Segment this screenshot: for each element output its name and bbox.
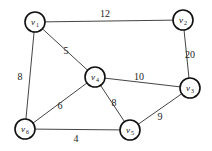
edge-weight-v4-v3: 10: [134, 71, 144, 82]
edge-weight-v4-v5: 8: [112, 97, 117, 108]
node-v5: v5: [120, 120, 140, 140]
node-circle: [85, 67, 105, 87]
node-label: v: [126, 125, 130, 135]
node-circle: [173, 10, 193, 30]
node-v2: v2: [173, 10, 193, 30]
edge-weight-v6-v5: 4: [74, 133, 79, 144]
node-circle: [25, 12, 45, 32]
weights-layer: 125820106894: [18, 8, 196, 144]
nodes-layer: v1v2v4v3v6v5: [15, 10, 200, 140]
node-v1: v1: [25, 12, 45, 32]
node-v4: v4: [85, 67, 105, 87]
node-v3: v3: [180, 78, 200, 98]
node-subscript: 4: [96, 77, 99, 83]
edge-weight-v3-v5: 9: [158, 111, 163, 122]
edge-v6-v5: [25, 129, 130, 130]
node-circle: [15, 119, 35, 139]
node-subscript: 6: [26, 129, 29, 135]
node-subscript: 5: [131, 130, 134, 136]
edge-weight-v1-v4: 5: [64, 45, 69, 56]
edge-weight-v1-v6: 8: [18, 71, 23, 82]
node-circle: [120, 120, 140, 140]
node-label: v: [21, 124, 25, 134]
edge-weight-v4-v6: 6: [58, 100, 63, 111]
node-subscript: 2: [184, 20, 187, 26]
graph-canvas: 125820106894 v1v2v4v3v6v5: [0, 0, 212, 151]
edge-weight-v2-v3: 20: [185, 49, 195, 60]
node-label: v: [179, 15, 183, 25]
node-circle: [180, 78, 200, 98]
node-subscript: 1: [36, 22, 39, 28]
edge-weight-v1-v2: 12: [100, 8, 110, 19]
edge-v1-v2: [35, 20, 183, 22]
node-subscript: 3: [191, 88, 194, 94]
edge-v1-v6: [25, 22, 35, 129]
edges-layer: [25, 20, 190, 130]
node-label: v: [91, 72, 95, 82]
node-v6: v6: [15, 119, 35, 139]
node-label: v: [31, 17, 35, 27]
edge-v3-v5: [130, 88, 190, 130]
node-label: v: [186, 83, 190, 93]
